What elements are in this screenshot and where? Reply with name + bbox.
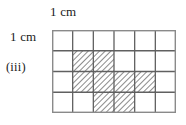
shaded-cell xyxy=(93,72,114,93)
top-unit-label: 1 cm xyxy=(50,5,76,18)
shaded-cell xyxy=(114,92,135,113)
shaded-cell xyxy=(93,51,114,72)
shaded-cell xyxy=(114,72,135,93)
grid-container xyxy=(52,30,176,113)
grid-svg xyxy=(52,30,176,113)
part-label: (iii) xyxy=(6,61,26,74)
grid-figure: 1 cm 1 cm (iii) xyxy=(0,0,186,125)
shaded-cell xyxy=(73,51,94,72)
shaded-cell xyxy=(93,92,114,113)
shaded-cell xyxy=(135,72,156,93)
shaded-cell xyxy=(73,72,94,93)
left-unit-label: 1 cm xyxy=(10,30,36,43)
